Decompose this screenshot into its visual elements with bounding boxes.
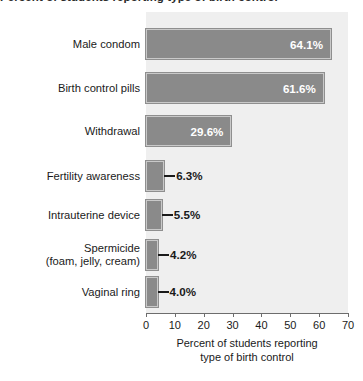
bar-value-label: 4.2% [170,248,196,261]
tick-label: 50 [284,319,296,331]
tick-mark [290,313,291,317]
bar-value-label: 6.3% [176,169,202,182]
tick-mark [233,313,234,317]
bar: 29.6% [146,116,231,146]
value-leader-line [158,291,169,293]
bar [146,277,158,307]
bar [146,240,158,270]
tick-label: 20 [198,319,210,331]
bar [146,161,164,191]
bar-value-label: 64.1% [290,38,323,51]
tick-mark [146,313,147,317]
category-label: Male condom [73,38,140,51]
tick-mark [204,313,205,317]
x-axis-caption-line1: Percent of students reporting [146,337,348,351]
tick-label: 60 [313,319,325,331]
bar: 61.6% [146,73,324,103]
category-label: Fertility awareness [47,170,140,183]
tick-mark [348,313,349,317]
bar: 64.1% [146,29,331,59]
tick-label: 40 [255,319,267,331]
value-leader-line [164,175,175,177]
category-label: Intrauterine device [48,209,140,222]
bar-value-label: 29.6% [191,125,224,138]
x-axis-caption: Percent of students reporting type of bi… [146,337,348,364]
x-axis-caption-line2: type of birth control [146,351,348,365]
tick-mark [261,313,262,317]
tick-mark [175,313,176,317]
tick-label: 0 [143,319,149,331]
x-axis-line [146,313,348,314]
tick-mark [319,313,320,317]
chart-title: Percent of students reporting type of bi… [0,0,363,3]
category-label: Vaginal ring [82,286,140,299]
tick-label: 30 [226,319,238,331]
category-label: Spermicide (foam, jelly, cream) [46,242,140,268]
tick-label: 10 [169,319,181,331]
value-leader-line [158,254,169,256]
value-leader-line [162,214,173,216]
bar-value-label: 61.6% [283,82,316,95]
tick-label: 70 [342,319,354,331]
category-label: Birth control pills [58,82,140,95]
bar-value-label: 5.5% [174,208,200,221]
bar-value-label: 4.0% [170,285,196,298]
bar [146,200,162,230]
category-label: Withdrawal [85,125,140,138]
bar-chart: Percent of students reporting type of bi… [0,0,363,381]
